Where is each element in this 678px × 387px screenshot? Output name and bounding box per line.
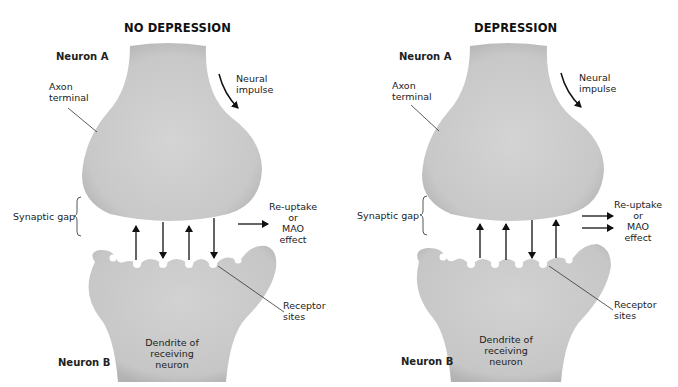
panel-depression: DEPRESSION Neuron A Axon terminal Neural… — [339, 0, 678, 387]
receptor-sites-label: Receptor sites — [614, 299, 657, 321]
dendrite-label: Dendrite of receiving neuron — [474, 334, 538, 367]
synaptic-gap-brace — [420, 196, 427, 235]
synaptic-gap-label: Synaptic gap — [357, 210, 419, 221]
panel-no-depression: NO DEPRESSION Neuron A Axon terminal Neu… — [0, 0, 339, 387]
panel-title: DEPRESSION — [474, 21, 557, 35]
neural-impulse-label: Neural impulse — [236, 73, 273, 95]
axon-terminal-leader — [68, 108, 97, 132]
dendrite-label: Dendrite of receiving neuron — [140, 337, 204, 370]
axon-terminal-shape — [422, 43, 604, 221]
neuron-a-label: Neuron A — [56, 51, 108, 62]
axon-terminal-leader — [411, 105, 439, 131]
reuptake-label: Re-uptake or MAO effect — [268, 201, 318, 245]
neuron-b-label: Neuron B — [58, 357, 110, 368]
reuptake-label: Re-uptake or MAO effect — [613, 199, 663, 243]
axon-terminal-shape — [82, 43, 262, 221]
neural-impulse-label: Neural impulse — [579, 72, 616, 94]
synaptic-gap-label: Synaptic gap — [13, 211, 75, 222]
axon-terminal-label: Axon terminal — [49, 81, 89, 103]
synapse-illustration-no-depression — [0, 0, 339, 387]
panel-title: NO DEPRESSION — [124, 21, 231, 35]
synapse-illustration-depression — [339, 0, 678, 387]
neural-impulse-arrow — [561, 73, 581, 107]
neuron-b-label: Neuron B — [401, 356, 453, 367]
axon-terminal-label: Axon terminal — [392, 80, 432, 102]
synaptic-gap-brace — [74, 197, 81, 236]
receptor-sites-label: Receptor sites — [283, 300, 326, 322]
neuron-a-label: Neuron A — [399, 51, 451, 62]
